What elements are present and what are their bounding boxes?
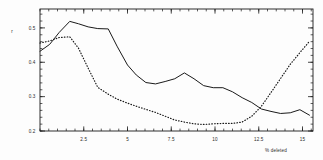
y-axis-tick-labels: 0.20.30.40.5: [29, 26, 36, 134]
y-tick-label-1: 0.3: [29, 94, 36, 99]
x-tick-label-3: 10: [212, 137, 218, 142]
x-axis-minor-ticks: [40, 9, 311, 131]
y-tick-label-0: 0.2: [29, 129, 36, 134]
x-axis-title: % deleted: [265, 148, 287, 153]
y-axis-major-ticks: [40, 28, 313, 131]
x-tick-label-2: 7.5: [168, 137, 175, 142]
chart-canvas: 2.557.51012.515 0.20.30.40.5 % deleted r: [0, 0, 323, 160]
axis-frame: [40, 9, 313, 131]
x-tick-label-0: 2.5: [80, 137, 87, 142]
x-tick-label-4: 12.5: [254, 137, 264, 142]
y-tick-label-3: 0.5: [29, 26, 36, 31]
x-axis-tick-labels: 2.557.51012.515: [80, 137, 305, 142]
y-tick-label-2: 0.4: [29, 60, 36, 65]
chart-figure: 2.557.51012.515 0.20.30.40.5 % deleted r: [0, 0, 323, 160]
y-axis-minor-ticks: [40, 14, 313, 131]
x-axis-major-ticks: [84, 9, 303, 131]
data-series-layer: [40, 21, 310, 124]
y-axis-title: r: [11, 29, 13, 34]
x-tick-label-5: 15: [300, 137, 306, 142]
x-tick-label-1: 5: [126, 137, 129, 142]
series-line-solid: [40, 21, 310, 115]
